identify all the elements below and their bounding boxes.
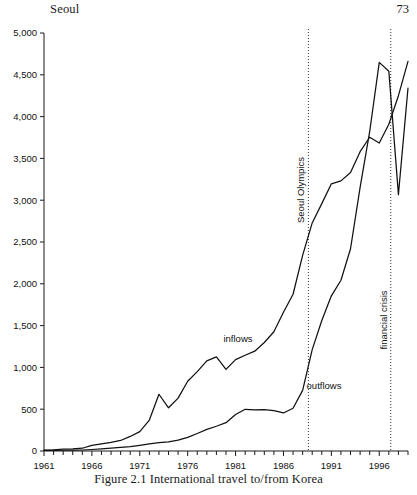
y-axis-tick-label: 1,500 bbox=[13, 320, 37, 331]
x-axis-tick-label: 1961 bbox=[33, 460, 54, 470]
y-axis-tick-label: 500 bbox=[21, 404, 37, 415]
series-labels: inflowsoutflows bbox=[223, 333, 341, 391]
chart-figure: 05001,0001,5002,0002,5003,0003,5004,0004… bbox=[0, 20, 417, 470]
figure-page: Seoul 73 05001,0001,5002,0002,5003,0003,… bbox=[0, 0, 417, 495]
y-axis-tick-label: 4,500 bbox=[13, 69, 37, 80]
y-axis-tick-label: 0 bbox=[32, 445, 37, 456]
x-axis: 19611966197119761981198619911996 bbox=[33, 451, 408, 470]
x-axis-tick-label: 1966 bbox=[81, 460, 102, 470]
page-number: 73 bbox=[397, 2, 410, 17]
y-axis-tick-label: 3,500 bbox=[13, 153, 37, 164]
series-line-outflows bbox=[44, 62, 408, 450]
y-axis-tick-label: 3,000 bbox=[13, 195, 37, 206]
line-chart: 05001,0001,5002,0002,5003,0003,5004,0004… bbox=[0, 20, 417, 470]
data-series bbox=[44, 61, 408, 450]
series-label-inflows: inflows bbox=[223, 333, 252, 344]
x-axis-tick-label: 1991 bbox=[321, 460, 342, 470]
x-axis-tick-label: 1986 bbox=[273, 460, 294, 470]
series-line-inflows bbox=[44, 61, 408, 450]
figure-caption: Figure 2.1 International travel to/from … bbox=[0, 472, 417, 487]
annotation-label-seoul-olympics: Seoul Olympics bbox=[295, 157, 306, 223]
y-axis: 05001,0001,5002,0002,5003,0003,5004,0004… bbox=[13, 27, 44, 456]
y-axis-tick-label: 5,000 bbox=[13, 27, 37, 38]
y-axis-tick-label: 2,500 bbox=[13, 236, 37, 247]
annotation-label-financial-crisis: financial crisis bbox=[378, 290, 389, 349]
x-axis-tick-label: 1976 bbox=[177, 460, 198, 470]
x-axis-tick-label: 1971 bbox=[129, 460, 150, 470]
y-axis-tick-label: 2,000 bbox=[13, 278, 37, 289]
x-axis-tick-label: 1996 bbox=[369, 460, 390, 470]
y-axis-tick-label: 4,000 bbox=[13, 111, 37, 122]
y-axis-tick-label: 1,000 bbox=[13, 362, 37, 373]
running-head-title: Seoul bbox=[50, 2, 79, 17]
series-label-outflows: outflows bbox=[307, 380, 342, 391]
running-head: Seoul 73 bbox=[0, 2, 417, 20]
annotation-labels: Seoul Olympicsfinancial crisis bbox=[295, 157, 388, 350]
x-axis-tick-label: 1981 bbox=[225, 460, 246, 470]
